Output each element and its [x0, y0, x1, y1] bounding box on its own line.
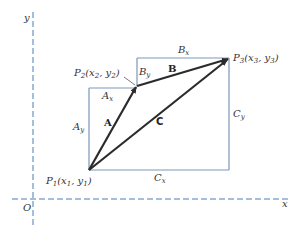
ax-label: Ax	[101, 90, 113, 103]
vector-c-label: C	[156, 116, 163, 127]
by-label: By	[138, 66, 151, 79]
x-axis-label: x	[282, 198, 288, 209]
p3-label: P3(x3, y3)	[232, 52, 279, 65]
vector-addition-diagram: y x O P1(x1, y1) P2(x2, y2) P3(x3, y3) A…	[0, 0, 302, 231]
origin-label: O	[23, 202, 31, 213]
vector-b	[137, 59, 228, 86]
vector-b-label: B	[168, 63, 176, 74]
cy-label: Cy	[233, 108, 246, 121]
vector-a-label: A	[103, 117, 112, 128]
ay-label: Ay	[72, 121, 85, 134]
diagram-svg: y x O P1(x1, y1) P2(x2, y2) P3(x3, y3) A…	[0, 0, 302, 231]
p2-label: P2(x2, y2)	[73, 67, 120, 80]
y-axis-label: y	[23, 12, 30, 23]
p1-label: P1(x1, y1)	[45, 175, 92, 188]
cx-label: Cx	[154, 172, 166, 185]
p2-leader	[124, 77, 135, 85]
bx-label: Bx	[177, 44, 189, 57]
